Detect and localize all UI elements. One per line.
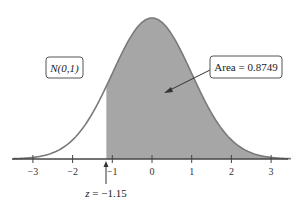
distribution-label-box: N(0,1) [46,57,83,78]
x-tick-label: −1 [107,166,118,177]
z-label: z = −1.15 [84,187,127,199]
x-tick-label: 3 [269,166,274,177]
distribution-label: N(0,1) [49,62,79,75]
x-tick-label: 2 [229,166,234,177]
normal-curve-chart: −3−2−10123 N(0,1) Area = 0.8749 z = −1.1… [0,0,298,207]
x-tick-label: 1 [189,166,194,177]
x-tick-label: 0 [150,166,155,177]
x-tick-label: −2 [67,166,78,177]
z-marker: z = −1.15 [84,161,127,199]
z-arrow-head [104,161,109,167]
x-tick-label: −3 [28,166,39,177]
area-label: Area = 0.8749 [214,61,278,73]
